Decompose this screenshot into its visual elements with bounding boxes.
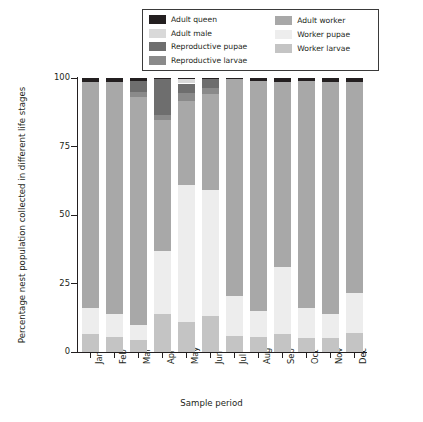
- bar-segment-may-reproductive-pupae: [178, 84, 195, 94]
- y-tick-label-0: 0: [46, 346, 70, 356]
- bar-segment-dec-adult-worker: [346, 82, 363, 293]
- y-axis-title: Percentage nest population collected in …: [17, 85, 27, 345]
- x-tick-label-jul: Jul: [238, 354, 248, 364]
- legend-item-adult-male: Adult male: [149, 28, 265, 40]
- legend-label-adult-queen: Adult queen: [171, 15, 217, 24]
- bar-segment-apr-worker-larvae: [154, 314, 171, 352]
- x-tick-jun: [210, 352, 211, 358]
- bar-segment-sep-adult-worker: [274, 82, 291, 267]
- y-axis-tick-labels: 0255075100: [40, 0, 70, 422]
- x-tick-feb: [114, 352, 115, 358]
- y-tick-label-50: 50: [46, 209, 70, 219]
- x-tick-label-jun: Jun: [214, 351, 224, 364]
- bar-segment-nov-adult-worker: [322, 82, 339, 314]
- chart-legend: Adult queen Adult male Reproductive pupa…: [142, 9, 379, 71]
- y-tick-label-100: 100: [46, 72, 70, 82]
- bar-segment-jun-adult-queen: [202, 78, 219, 79]
- bar-segment-feb-worker-larvae: [106, 337, 123, 352]
- legend-item-adult-queen: Adult queen: [149, 14, 265, 26]
- bar-segment-aug-worker-larvae: [250, 337, 267, 352]
- bar-segment-feb-worker-pupae: [106, 314, 123, 337]
- legend-label-reproductive-pupae: Reproductive pupae: [171, 42, 247, 51]
- x-tick-dec: [354, 352, 355, 358]
- x-tick-sep: [282, 352, 283, 358]
- bar-segment-dec-worker-pupae: [346, 293, 363, 333]
- legend-label-worker-pupae: Worker pupae: [297, 30, 350, 39]
- legend-swatch-adult-queen: [149, 15, 166, 24]
- y-tick-50: [71, 215, 77, 216]
- bar-segment-sep-worker-pupae: [274, 267, 291, 334]
- bar-segment-oct-worker-larvae: [298, 338, 315, 352]
- bar-segment-aug-adult-worker: [250, 81, 267, 311]
- bar-segment-aug-worker-pupae: [250, 311, 267, 337]
- bar-oct: [298, 78, 315, 352]
- bar-segment-jul-worker-pupae: [226, 296, 243, 336]
- plot-area: [78, 78, 366, 352]
- x-tick-mar: [138, 352, 139, 358]
- bar-segment-nov-adult-queen: [322, 78, 339, 82]
- legend-item-worker-pupae: Worker pupae: [275, 28, 372, 40]
- bar-segment-oct-worker-pupae: [298, 308, 315, 338]
- x-tick-nov: [330, 352, 331, 358]
- legend-swatch-reproductive-pupae: [149, 42, 166, 51]
- x-tick-jan: [90, 352, 91, 358]
- bar-segment-dec-adult-queen: [346, 78, 363, 82]
- bar-segment-mar-adult-queen: [130, 78, 147, 81]
- bar-segment-jan-worker-larvae: [82, 334, 99, 352]
- x-tick-oct: [306, 352, 307, 358]
- bar-segment-may-adult-queen: [178, 78, 195, 79]
- bar-segment-jul-adult-worker: [226, 79, 243, 295]
- bar-jun: [202, 78, 219, 352]
- bar-segment-jul-adult-queen: [226, 78, 243, 79]
- bar-segment-nov-worker-pupae: [322, 314, 339, 339]
- bar-segment-apr-reproductive-pupae: [154, 79, 171, 115]
- y-tick-0: [71, 352, 77, 353]
- bar-segment-oct-adult-queen: [298, 78, 315, 81]
- bar-segment-mar-worker-pupae: [130, 325, 147, 340]
- bar-segment-apr-reproductive-larvae: [154, 115, 171, 120]
- y-tick-100: [71, 78, 77, 79]
- y-tick-75: [71, 146, 77, 147]
- bar-segment-feb-adult-worker: [106, 82, 123, 314]
- legend-column-right: Adult worker Worker pupae Worker larvae: [275, 14, 372, 66]
- y-tick-25: [71, 283, 77, 284]
- legend-label-adult-male: Adult male: [171, 29, 212, 38]
- bar-segment-jun-worker-pupae: [202, 190, 219, 316]
- x-tick-apr: [162, 352, 163, 358]
- bar-segment-jun-reproductive-larvae: [202, 88, 219, 95]
- x-tick-may: [186, 352, 187, 358]
- x-tick-aug: [258, 352, 259, 358]
- bar-segment-mar-reproductive-pupae: [130, 81, 147, 92]
- x-tick-label-jan: Jan: [94, 351, 104, 364]
- bar-segment-sep-adult-queen: [274, 78, 291, 82]
- bar-segment-mar-reproductive-larvae: [130, 92, 147, 97]
- bar-segment-dec-worker-larvae: [346, 333, 363, 352]
- legend-label-worker-larvae: Worker larvae: [297, 44, 350, 53]
- bar-segment-may-reproductive-larvae: [178, 93, 195, 101]
- legend-swatch-adult-male: [149, 29, 166, 38]
- bar-jan: [82, 78, 99, 352]
- bar-segment-jan-adult-worker: [82, 82, 99, 308]
- bar-segment-mar-worker-larvae: [130, 340, 147, 352]
- legend-item-worker-larvae: Worker larvae: [275, 42, 372, 54]
- bar-segment-jan-adult-queen: [82, 78, 99, 82]
- bar-segment-may-worker-larvae: [178, 322, 195, 352]
- bar-segment-sep-worker-larvae: [274, 334, 291, 352]
- bar-segment-jul-worker-larvae: [226, 336, 243, 352]
- legend-item-reproductive-larvae: Reproductive larvae: [149, 55, 265, 67]
- bar-segment-apr-worker-pupae: [154, 251, 171, 314]
- bar-segment-may-adult-worker: [178, 101, 195, 185]
- bar-segment-jun-adult-worker: [202, 94, 219, 190]
- legend-swatch-reproductive-larvae: [149, 56, 166, 65]
- bar-mar: [130, 78, 147, 352]
- x-axis-title: Sample period: [0, 398, 423, 408]
- bar-segment-feb-adult-queen: [106, 78, 123, 82]
- x-tick-jul: [234, 352, 235, 358]
- legend-swatch-worker-pupae: [275, 30, 292, 39]
- bar-sep: [274, 78, 291, 352]
- bar-segment-mar-adult-worker: [130, 97, 147, 324]
- legend-item-adult-worker: Adult worker: [275, 14, 372, 26]
- bar-segment-may-adult-male: [178, 79, 195, 83]
- bar-apr: [154, 78, 171, 352]
- legend-label-adult-worker: Adult worker: [297, 16, 345, 25]
